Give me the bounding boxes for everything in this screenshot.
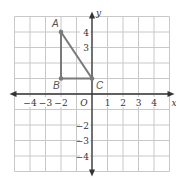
vertex-point-a	[59, 30, 64, 35]
y-tick-label: 4	[83, 28, 89, 38]
y-axis-arrow-down-icon	[89, 170, 95, 177]
vertex-label-c: C	[96, 80, 104, 91]
x-tick-label: −4	[23, 98, 37, 108]
x-tick-label: 4	[151, 98, 157, 108]
y-tick-label: −4	[76, 152, 90, 162]
y-tick-label: 3	[83, 43, 89, 53]
x-axis-label: x	[172, 98, 177, 108]
y-tick-label: −2	[76, 121, 89, 131]
x-axis-arrow-left-icon	[10, 91, 17, 97]
coordinate-plane-figure: −4−3−2123443−2−3−4OxyABC	[0, 0, 176, 179]
vertex-label-a: A	[51, 18, 59, 29]
y-axis-arrow-up-icon	[89, 12, 95, 19]
x-axis-arrow-right-icon	[168, 91, 175, 97]
x-tick-label: 2	[120, 98, 126, 108]
x-tick-label: 3	[136, 98, 142, 108]
x-tick-label: −3	[39, 98, 53, 108]
coordinate-grid: −4−3−2123443−2−3−4OxyABC	[0, 0, 176, 179]
y-tick-label: −3	[76, 136, 90, 146]
origin-label: O	[80, 98, 88, 108]
x-tick-label: 1	[105, 98, 111, 108]
x-tick-label: −2	[54, 98, 67, 108]
vertex-label-b: B	[53, 80, 60, 91]
y-axis-label: y	[95, 8, 102, 18]
vertex-point-c	[90, 76, 95, 81]
